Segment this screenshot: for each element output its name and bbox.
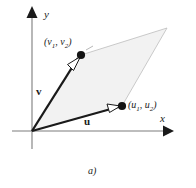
paren-close: ) <box>153 99 156 110</box>
point-v-coordinates-label: (v1, v2) <box>44 37 72 50</box>
x-axis-arrowhead <box>163 126 174 137</box>
vector-parallelogram-figure: y x v u (v1, v2) (u1, u2) a) <box>0 0 196 188</box>
v-label-leader <box>86 46 93 50</box>
vector-v-endpoint-dot <box>77 51 85 59</box>
y-axis-arrowhead <box>27 6 38 18</box>
paren-close: ) <box>68 36 71 47</box>
vector-v-label: v <box>36 86 42 97</box>
vector-u-label: u <box>84 116 90 127</box>
x-axis-label: x <box>160 113 165 124</box>
figure-canvas <box>0 0 196 188</box>
figure-caption: a) <box>88 166 96 176</box>
vector-u-endpoint-dot <box>118 102 126 110</box>
point-u-coordinates-label: (u1, u2) <box>128 100 157 113</box>
y-axis-label: y <box>44 9 49 20</box>
